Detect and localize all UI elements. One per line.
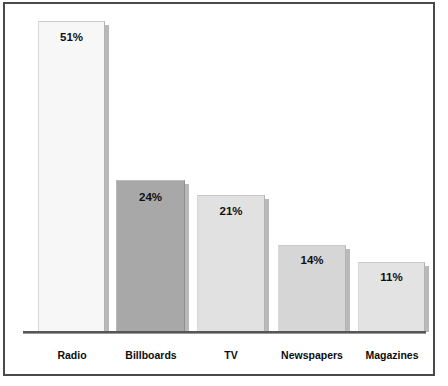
bar-value-newspapers: 14% — [278, 254, 346, 266]
category-axis-line-shadow — [23, 333, 426, 334]
bar-chart-figure: 51% 24% 21% 14% 11% Radio Billboards TV … — [0, 0, 448, 386]
bar-radio[interactable] — [38, 21, 105, 332]
bar-value-billboards: 24% — [116, 191, 185, 203]
category-label-newspapers: Newspapers — [266, 349, 358, 361]
bar-value-tv: 21% — [197, 205, 265, 217]
bar-shadow-radio — [105, 25, 109, 332]
plot-area: 51% 24% 21% 14% 11% Radio Billboards TV … — [0, 0, 448, 386]
bar-shadow-tv — [265, 199, 269, 332]
bar-value-radio: 51% — [38, 31, 105, 43]
category-label-magazines: Magazines — [349, 349, 435, 361]
bar-shadow-newspapers — [346, 249, 350, 332]
category-label-radio: Radio — [28, 349, 116, 361]
category-label-tv: TV — [191, 349, 271, 361]
category-label-billboards: Billboards — [106, 349, 196, 361]
bar-shadow-magazines — [425, 266, 429, 332]
bar-value-magazines: 11% — [358, 271, 425, 283]
bar-shadow-billboards — [185, 184, 189, 332]
